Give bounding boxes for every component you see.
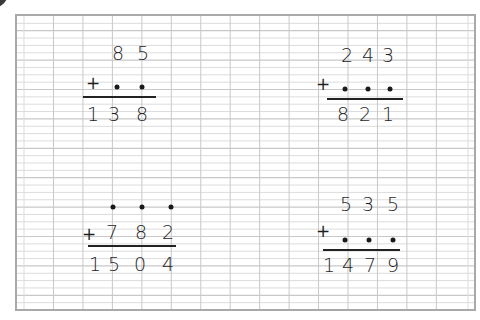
sum-digit: 9: [387, 256, 399, 275]
corner-mark: [0, 0, 8, 8]
sum-line: [83, 96, 156, 98]
missing-digit-placeholder[interactable]: [140, 205, 145, 210]
missing-digit-placeholder[interactable]: [169, 205, 174, 210]
missing-digit-placeholder[interactable]: [343, 238, 348, 243]
addend-digit: 7: [106, 223, 118, 242]
addend-digit: 3: [382, 46, 394, 65]
plus-sign: +: [82, 226, 96, 243]
sum-digit: 1: [87, 105, 99, 124]
addend-digit: 4: [362, 46, 374, 65]
addend-digit: 5: [340, 195, 352, 214]
missing-digit-placeholder[interactable]: [140, 85, 145, 90]
missing-digit-placeholder[interactable]: [391, 238, 396, 243]
grid-lines: [17, 16, 474, 309]
plus-sign: +: [86, 75, 100, 92]
missing-digit-placeholder[interactable]: [366, 87, 371, 92]
sum-digit: 0: [134, 255, 146, 274]
addend-digit: 8: [112, 44, 124, 63]
missing-digit-placeholder[interactable]: [115, 85, 120, 90]
sum-digit: 4: [162, 255, 174, 274]
sum-digit: 1: [89, 255, 101, 274]
missing-digit-placeholder[interactable]: [388, 87, 393, 92]
missing-digit-placeholder[interactable]: [343, 87, 348, 92]
sum-digit: 2: [359, 105, 371, 124]
addend-digit: 3: [362, 195, 374, 214]
sum-digit: 1: [323, 256, 335, 275]
plus-sign: +: [316, 223, 330, 240]
sum-digit: 8: [136, 105, 148, 124]
plus-sign: +: [316, 76, 330, 93]
addend-digit: 2: [162, 223, 174, 242]
sum-digit: 1: [382, 105, 394, 124]
missing-digit-placeholder[interactable]: [111, 205, 116, 210]
sum-digit: 3: [108, 105, 120, 124]
sum-digit: 8: [337, 105, 349, 124]
sum-digit: 7: [364, 256, 376, 275]
addend-digit: 5: [387, 195, 399, 214]
addend-digit: 2: [341, 46, 353, 65]
sum-line: [327, 98, 403, 100]
sum-line: [323, 249, 400, 251]
sum-digit: 4: [342, 256, 354, 275]
addend-digit: 8: [135, 223, 147, 242]
grid-paper-sheet: [15, 14, 476, 311]
sum-digit: 5: [108, 255, 120, 274]
addend-digit: 5: [137, 44, 149, 63]
sum-line: [88, 245, 176, 247]
missing-digit-placeholder[interactable]: [367, 238, 372, 243]
